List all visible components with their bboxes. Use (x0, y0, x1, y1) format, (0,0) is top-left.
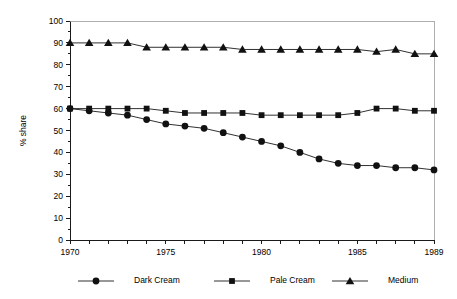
data-point-square (316, 112, 322, 118)
data-point-circle (316, 156, 323, 163)
chart-legend: Dark CreamPale CreamMedium (78, 275, 418, 285)
data-point-triangle (353, 45, 362, 52)
y-tick-label: 80 (54, 60, 64, 70)
data-point-square (105, 106, 111, 112)
data-point-circle (93, 278, 100, 285)
y-tick-label: 20 (54, 191, 64, 201)
x-tick-label: 1980 (252, 247, 271, 257)
data-point-triangle (315, 45, 324, 52)
data-point-circle (277, 142, 284, 149)
legend-label: Pale Cream (270, 275, 315, 285)
data-point-square (278, 112, 284, 118)
data-point-square (374, 106, 380, 112)
x-tick-label: 1985 (348, 247, 367, 257)
data-point-triangle (257, 45, 266, 52)
data-point-circle (335, 160, 342, 167)
legend-item-pale-cream[interactable]: Pale Cream (214, 275, 315, 285)
data-point-triangle (200, 43, 209, 50)
data-point-circle (201, 125, 208, 132)
data-point-triangle (430, 50, 439, 57)
data-point-circle (296, 149, 303, 156)
data-point-circle (124, 112, 131, 119)
y-tick-label: 40 (54, 147, 64, 157)
data-point-circle (411, 164, 418, 171)
series-line (70, 109, 434, 170)
data-point-square (163, 108, 169, 114)
data-point-triangle (123, 39, 132, 46)
x-tick-label: 1989 (425, 247, 444, 257)
data-point-circle (182, 123, 189, 130)
data-point-triangle (85, 39, 94, 46)
legend-label: Dark Cream (134, 275, 180, 285)
data-point-square (220, 110, 226, 116)
data-point-triangle (219, 43, 228, 50)
data-point-circle (354, 162, 361, 169)
y-axis-label: % share (18, 115, 28, 146)
legend-item-medium[interactable]: Medium (332, 275, 418, 285)
y-tick-label: 60 (54, 104, 64, 114)
y-tick-label: 100 (49, 16, 63, 26)
y-axis-title: % share (18, 115, 28, 146)
x-tick-label: 1975 (156, 247, 175, 257)
data-point-square (393, 106, 399, 112)
data-point-circle (431, 167, 438, 174)
series-dark-cream (67, 105, 438, 173)
data-point-square (182, 110, 188, 116)
data-point-circle (373, 162, 380, 169)
data-point-triangle (296, 45, 305, 52)
data-point-square (201, 110, 207, 116)
y-axis: 0102030405060708090100 (49, 16, 70, 245)
data-point-triangle (276, 45, 285, 52)
x-axis: 19701975198019851989 (61, 240, 444, 257)
data-point-circle (392, 164, 399, 171)
data-point-triangle (161, 43, 170, 50)
data-point-square (259, 112, 265, 118)
x-tick-label: 1970 (61, 247, 80, 257)
legend-label: Medium (388, 275, 418, 285)
data-point-square (86, 106, 92, 112)
data-point-triangle (334, 45, 343, 52)
y-tick-label: 50 (54, 126, 64, 136)
data-point-square (144, 106, 150, 112)
chart-container: 0102030405060708090100 19701975198019851… (0, 0, 457, 299)
y-tick-label: 70 (54, 82, 64, 92)
data-point-square (431, 108, 437, 114)
data-point-triangle (104, 39, 113, 46)
data-point-circle (239, 134, 246, 141)
data-point-triangle (181, 43, 190, 50)
data-point-triangle (391, 45, 400, 52)
data-point-square (125, 106, 131, 112)
y-tick-label: 30 (54, 169, 64, 179)
data-point-circle (220, 129, 227, 136)
data-point-circle (143, 116, 150, 123)
data-point-square (229, 278, 235, 284)
series-layer (66, 39, 439, 174)
y-tick-label: 90 (54, 38, 64, 48)
data-point-triangle (346, 277, 355, 284)
data-point-square (335, 112, 341, 118)
data-point-circle (258, 138, 265, 145)
legend-item-dark-cream[interactable]: Dark Cream (78, 275, 180, 285)
data-point-circle (162, 121, 169, 128)
data-point-square (354, 110, 360, 116)
series-pale-cream (67, 106, 437, 118)
y-tick-label: 10 (54, 213, 64, 223)
data-point-square (240, 110, 246, 116)
data-point-square (412, 108, 418, 114)
data-point-square (297, 112, 303, 118)
y-tick-label: 0 (58, 235, 63, 245)
data-point-square (67, 106, 73, 112)
series-medium (66, 39, 439, 57)
line-chart: 0102030405060708090100 19701975198019851… (0, 0, 457, 299)
